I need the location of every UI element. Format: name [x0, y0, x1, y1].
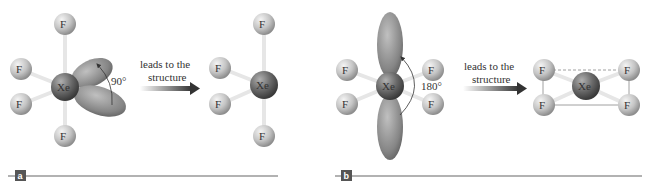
- svg-text:Xe: Xe: [57, 81, 70, 93]
- arrow-caption-line1-b: leads to the: [464, 60, 514, 72]
- svg-text:F: F: [342, 98, 348, 110]
- panel-a: 90° F F F F Xe leads to the structure: [8, 13, 278, 181]
- panel-b: 180° F F F F Xe leads to the structure: [335, 12, 642, 181]
- svg-text:F: F: [215, 98, 221, 110]
- arrow-caption-line1: leads to the: [140, 58, 190, 70]
- arrow-head-icon-b: [517, 82, 527, 95]
- svg-text:F: F: [539, 99, 545, 111]
- svg-text:F: F: [539, 64, 545, 76]
- arrow-caption-line2-b: structure: [472, 73, 511, 85]
- svg-text:Xe: Xe: [382, 80, 395, 92]
- xef4-structure-diagram: 90° F F F F Xe leads to the structure: [0, 0, 650, 194]
- svg-text:Xe: Xe: [578, 80, 591, 92]
- panel-label-b: b: [344, 171, 350, 181]
- svg-text:F: F: [259, 130, 265, 142]
- svg-text:F: F: [624, 64, 630, 76]
- angle-label: 90°: [111, 75, 126, 87]
- lone-pair-lobe-bottom: [377, 94, 403, 160]
- arrow-shaft: [140, 86, 192, 91]
- svg-text:F: F: [624, 99, 630, 111]
- svg-text:F: F: [16, 98, 22, 110]
- svg-text:F: F: [342, 64, 348, 76]
- svg-text:F: F: [60, 18, 66, 30]
- svg-text:F: F: [215, 62, 221, 74]
- svg-text:Xe: Xe: [256, 79, 269, 91]
- svg-text:F: F: [16, 63, 22, 75]
- lone-pair-lobe-top: [377, 12, 403, 78]
- svg-text:F: F: [428, 64, 434, 76]
- svg-text:F: F: [60, 130, 66, 142]
- arrow-head-icon: [190, 82, 200, 95]
- svg-text:F: F: [259, 18, 265, 30]
- arrow-caption-line2: structure: [148, 71, 187, 83]
- arrow-shaft-b: [463, 86, 519, 91]
- angle-label-b: 180°: [421, 80, 442, 92]
- svg-text:F: F: [428, 98, 434, 110]
